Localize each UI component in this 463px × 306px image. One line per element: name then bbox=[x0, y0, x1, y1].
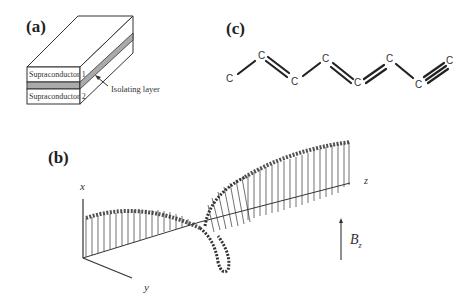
axis-y-label: y bbox=[144, 281, 149, 293]
axis-x-label: x bbox=[80, 180, 85, 192]
field-b-label: Bz bbox=[350, 232, 362, 250]
axis-z-label: z bbox=[364, 175, 368, 186]
panel-b-spin-twist-plot bbox=[0, 0, 463, 306]
